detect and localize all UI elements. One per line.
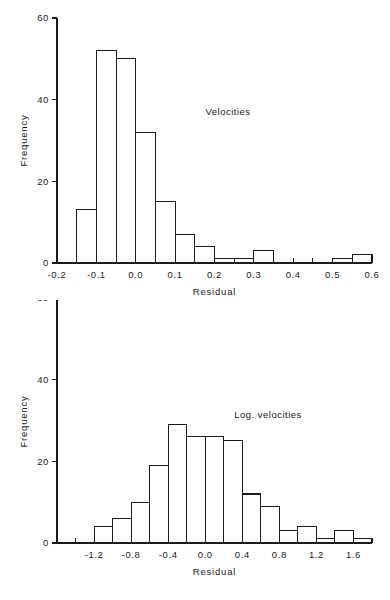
x-tick-label-1: -0.1 <box>87 269 106 280</box>
x-axis-title: Residual <box>193 286 236 297</box>
x-tick-label-2: -0.4 <box>159 549 178 560</box>
y-tick-label-20: 20 <box>37 176 49 187</box>
x-tick-label-5: 0.3 <box>246 269 261 280</box>
x-tick-label-3: 0.0 <box>198 549 213 560</box>
histogram-outline <box>77 51 372 263</box>
log-velocities-chart-svg: 0204060-1.2-0.8-0.40.00.40.81.21.6Residu… <box>0 300 390 600</box>
y-tick-label-40: 40 <box>37 94 49 105</box>
x-tick-label-6: 1.2 <box>309 549 324 560</box>
x-tick-label-1: -0.8 <box>122 549 141 560</box>
x-tick-label-7: 1.6 <box>346 549 361 560</box>
series-annotation: Velocities <box>205 106 250 117</box>
y-tick-label-20: 20 <box>37 456 49 467</box>
y-tick-label-60: 60 <box>37 300 49 303</box>
x-tick-label-0: -1.2 <box>85 549 104 560</box>
y-axis-title: Frequency <box>18 114 29 166</box>
x-tick-label-4: 0.2 <box>207 269 222 280</box>
y-tick-label-40: 40 <box>37 374 49 385</box>
y-tick-label-0: 0 <box>43 257 49 268</box>
figure-container: 0204060-0.2-0.10.00.10.20.30.40.50.6Resi… <box>0 0 390 600</box>
x-tick-label-6: 0.4 <box>286 269 301 280</box>
y-tick-label-60: 60 <box>37 12 49 23</box>
x-tick-label-8: 0.6 <box>364 269 379 280</box>
chart-velocities-histogram: 0204060-0.2-0.10.00.10.20.30.40.50.6Resi… <box>18 12 380 297</box>
x-tick-label-5: 0.8 <box>272 549 287 560</box>
x-tick-label-0: -0.2 <box>48 269 67 280</box>
y-axis-title: Frequency <box>18 395 29 447</box>
x-tick-label-4: 0.4 <box>235 549 250 560</box>
x-tick-label-7: 0.5 <box>325 269 340 280</box>
histogram-outline <box>94 425 372 543</box>
x-tick-label-2: 0.0 <box>128 269 143 280</box>
chart-panel-velocities: 0204060-0.2-0.10.00.10.20.30.40.50.6Resi… <box>0 0 390 300</box>
y-tick-label-0: 0 <box>43 537 49 548</box>
chart-panel-log-velocities: 0204060-1.2-0.8-0.40.00.40.81.21.6Residu… <box>0 300 390 600</box>
velocities-chart-svg: 0204060-0.2-0.10.00.10.20.30.40.50.6Resi… <box>0 0 390 300</box>
x-axis-title: Residual <box>193 566 236 577</box>
chart-log-velocities-histogram: 0204060-1.2-0.8-0.40.00.40.81.21.6Residu… <box>18 300 372 577</box>
x-tick-label-3: 0.1 <box>168 269 183 280</box>
series-annotation: Log. velocities <box>234 409 302 420</box>
